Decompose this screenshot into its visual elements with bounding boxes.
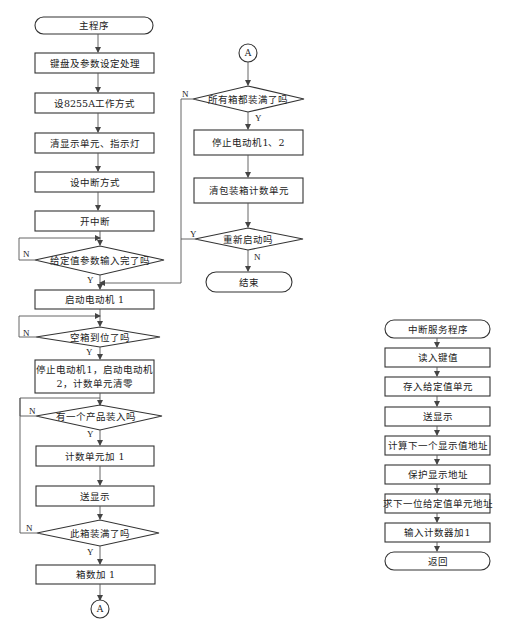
decision-all-boxes-full: 所有箱都装满了吗: [193, 86, 304, 112]
end-label: 结束: [239, 277, 259, 288]
step-label: 设中断方式: [70, 177, 120, 188]
branch-yes-label: Y: [87, 547, 94, 557]
isr-step-send-display: 送显示: [385, 407, 490, 426]
step-label: 计数单元加 1: [65, 451, 124, 462]
isr-step-next-setpoint-address: 求下一位给定值单元地址: [383, 494, 493, 513]
decision-params-done: 给定值参数输入完了吗: [35, 246, 164, 275]
connector-a-out: A: [91, 600, 109, 618]
flowchart-canvas: 主程序 键盘及参数设定处理 设8255A工作方式 清显示单元、指示灯 设中断方式…: [0, 0, 509, 627]
step-stop-motor1-start-motor2: 停止电动机1，启动电动机 2，计数单元清零: [35, 360, 154, 393]
step-label: 送显示: [80, 491, 110, 502]
interrupt-routine-flow: 中断服务程序 读入键值 存入给定值单元 送显示 计算下一个显示值地址 保护显示地…: [383, 320, 493, 570]
step-clear-display: 清显示单元、指示灯: [35, 133, 154, 153]
branch-yes-label: Y: [190, 229, 197, 239]
interrupt-start-terminal: 中断服务程序: [385, 320, 490, 338]
decision-label: 空箱到位了吗: [70, 332, 130, 343]
step-start-motor1: 启动电动机 1: [35, 290, 154, 309]
isr-step-read-key: 读入键值: [385, 348, 490, 367]
branch-no-label: N: [26, 523, 33, 533]
step-label: 送显示: [423, 411, 453, 422]
end-terminal: 结束: [206, 272, 292, 292]
branch-no-label: N: [23, 328, 30, 338]
step-label-line2: 2，计数单元清零: [56, 378, 132, 389]
main-start-label: 主程序: [79, 20, 109, 31]
branch-no-label: N: [254, 252, 261, 262]
step-label: 存入给定值单元: [403, 381, 473, 392]
branch-no-label: N: [29, 406, 36, 416]
isr-step-store-setpoint: 存入给定值单元: [385, 377, 490, 396]
decision-label: 重新启动吗: [223, 234, 273, 245]
connector-a-in: A: [239, 44, 257, 62]
step-keyboard-params: 键盘及参数设定处理: [35, 53, 154, 73]
step-set-8255a: 设8255A工作方式: [35, 93, 154, 113]
step-label: 清显示单元、指示灯: [50, 138, 140, 149]
step-label: 开中断: [80, 216, 110, 227]
decision-product-loaded: 有一个产品装入吗: [36, 405, 162, 430]
connector-label: A: [244, 48, 252, 58]
interrupt-start-label: 中断服务程序: [408, 324, 468, 335]
branch-no-label: N: [182, 89, 189, 99]
decision-label: 此箱装满了吗: [70, 528, 130, 539]
return-label: 返回: [428, 556, 448, 567]
step-label-line1: 停止电动机1，启动电动机: [36, 364, 152, 375]
isr-step-next-display-address: 计算下一个显示值地址: [385, 436, 490, 455]
step-send-display: 送显示: [36, 486, 154, 506]
step-label: 停止电动机1、2: [212, 137, 284, 148]
connector-label: A: [96, 604, 104, 614]
branch-no-label: N: [23, 249, 30, 259]
isr-step-input-counter-increment: 输入计数器加1: [385, 523, 490, 542]
step-label: 读入键值: [418, 352, 458, 363]
step-stop-motors: 停止电动机1、2: [194, 130, 303, 155]
step-enable-interrupt: 开中断: [35, 211, 154, 231]
decision-label: 有一个产品装入吗: [56, 411, 136, 422]
decision-label: 所有箱都装满了吗: [208, 94, 288, 105]
main-program-flow: 主程序 键盘及参数设定处理 设8255A工作方式 清显示单元、指示灯 设中断方式…: [19, 17, 164, 618]
step-label: 设8255A工作方式: [54, 98, 135, 109]
branch-yes-label: Y: [87, 275, 94, 285]
branch-yes-label: Y: [87, 429, 94, 439]
step-clear-box-counter: 清包装箱计数单元: [194, 178, 303, 203]
decision-label: 给定值参数输入完了吗: [50, 255, 150, 266]
step-label: 计算下一个显示值地址: [388, 440, 488, 451]
step-label: 键盘及参数设定处理: [50, 58, 140, 69]
step-box-count-increment: 箱数加 1: [36, 565, 155, 584]
decision-empty-box: 空箱到位了吗: [36, 327, 160, 347]
interrupt-return-terminal: 返回: [385, 552, 490, 570]
step-label: 清包装箱计数单元: [209, 185, 289, 196]
decision-restart: 重新启动吗: [195, 228, 303, 250]
step-label: 保护显示地址: [408, 469, 468, 480]
step-label: 输入计数器加1: [404, 527, 470, 538]
step-label: 求下一位给定值单元地址: [383, 498, 493, 509]
step-label: 箱数加 1: [76, 569, 115, 580]
decision-box-full: 此箱装满了吗: [37, 520, 159, 546]
isr-step-save-display-address: 保护显示地址: [385, 465, 490, 484]
step-label: 启动电动机 1: [65, 294, 124, 305]
step-set-interrupt-mode: 设中断方式: [35, 172, 154, 192]
branch-yes-label: Y: [86, 347, 93, 357]
branch-yes-label: Y: [255, 113, 262, 123]
main-start-terminal: 主程序: [35, 17, 153, 34]
step-count-increment: 计数单元加 1: [36, 446, 154, 466]
